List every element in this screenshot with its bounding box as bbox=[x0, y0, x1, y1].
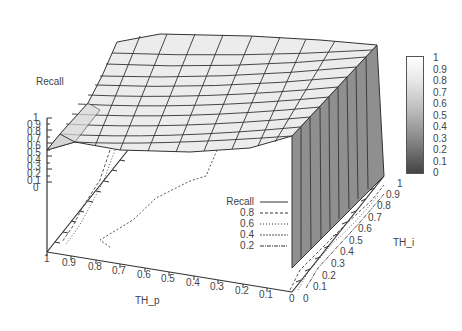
cb-tick: 0.6 bbox=[433, 99, 447, 109]
legend: Recall 0.8 0.6 0.4 0.2 bbox=[188, 196, 288, 251]
cb-tick: 1 bbox=[433, 53, 439, 63]
cb-tick: 0.8 bbox=[433, 76, 447, 86]
x-tick: 1 bbox=[44, 254, 50, 264]
x-tick: 0.9 bbox=[62, 258, 76, 268]
z-tick: 0 bbox=[33, 183, 39, 193]
y-tick: 0.5 bbox=[349, 236, 363, 246]
x-tick: 0.8 bbox=[88, 262, 102, 272]
x-axis-label: TH_p bbox=[135, 296, 159, 306]
legend-entry: 0.6 bbox=[188, 218, 288, 229]
y-tick: 1 bbox=[397, 179, 403, 189]
legend-entry: 0.2 bbox=[188, 240, 288, 251]
x-tick: 0.5 bbox=[161, 274, 175, 284]
y-tick: 0.6 bbox=[358, 224, 372, 234]
dotted-line-icon bbox=[260, 221, 288, 227]
y-tick: 0.9 bbox=[386, 190, 400, 200]
y-tick: 0.4 bbox=[340, 247, 354, 257]
dash-dot-line-icon bbox=[260, 243, 288, 249]
legend-entry: Recall bbox=[188, 196, 288, 207]
cb-tick: 0 bbox=[433, 168, 439, 178]
y-tick: 0.1 bbox=[313, 282, 327, 292]
z-axis-label: Recall bbox=[36, 77, 64, 87]
x-tick: 0.1 bbox=[259, 290, 273, 300]
surface-plot bbox=[0, 0, 462, 331]
cb-tick: 0.1 bbox=[433, 157, 447, 167]
cb-tick: 0.5 bbox=[433, 111, 447, 121]
y-tick: 0 bbox=[303, 294, 309, 304]
cb-tick: 0.3 bbox=[433, 134, 447, 144]
x-tick: 0.2 bbox=[235, 286, 249, 296]
x-tick: 0.6 bbox=[137, 270, 151, 280]
y-axis-label: TH_i bbox=[393, 238, 414, 248]
legend-entry: 0.8 bbox=[188, 207, 288, 218]
legend-entry: 0.4 bbox=[188, 229, 288, 240]
x-tick: 0.3 bbox=[210, 282, 224, 292]
x-tick: 0.4 bbox=[186, 278, 200, 288]
cb-tick: 0.2 bbox=[433, 145, 447, 155]
y-tick: 0.2 bbox=[322, 271, 336, 281]
dashed-line-icon bbox=[260, 210, 288, 216]
x-tick: 0.7 bbox=[112, 266, 126, 276]
solid-line-icon bbox=[260, 199, 288, 205]
y-tick: 0.7 bbox=[368, 213, 382, 223]
fine-dashed-line-icon bbox=[260, 232, 288, 238]
cb-tick: 0.7 bbox=[433, 88, 447, 98]
y-tick: 0.8 bbox=[377, 201, 391, 211]
cb-tick: 0.4 bbox=[433, 122, 447, 132]
cb-tick: 0.9 bbox=[433, 65, 447, 75]
y-tick: 0.3 bbox=[331, 259, 345, 269]
colorbar bbox=[406, 56, 424, 174]
x-tick: 0 bbox=[289, 294, 295, 304]
